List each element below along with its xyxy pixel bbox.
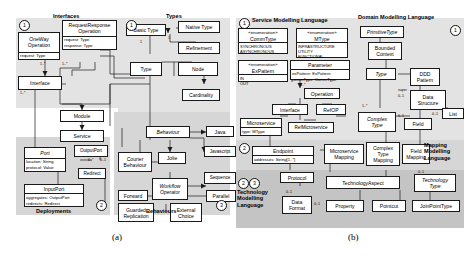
caption-domain-ml: Domain Modelling Language — [358, 14, 434, 20]
class-interface-b[interactable]: Interface — [272, 104, 308, 115]
class-attr-1: request: Type — [63, 36, 116, 43]
multiplicity: 1..* — [20, 91, 25, 95]
class-expattern-enum[interactable]: «enumeration» ExPattern IN OUT — [238, 60, 288, 82]
class-endpoint[interactable]: Endpoint addresses: String[1..*] — [252, 146, 314, 164]
class-name: Endpoint — [254, 148, 312, 154]
section-number-technology-ml-b: 3 — [249, 178, 260, 189]
class-name: Service — [62, 133, 102, 139]
caption-behaviours: Behaviours — [146, 208, 176, 214]
class-type-b[interactable]: Type — [366, 68, 396, 80]
class-parameter[interactable]: Parameter exPattern: ExPattern commType:… — [290, 60, 350, 80]
class-type-a[interactable]: Type — [130, 62, 162, 76]
class-attr-1: aggregates: OutputPort — [25, 193, 83, 200]
class-requestresponse-operation[interactable]: RequestResponse Operation request: Type … — [62, 20, 117, 50]
class-ddd-pattern[interactable]: DDD Pattern — [410, 68, 440, 86]
class-pointcut[interactable]: Pointcut — [372, 200, 406, 212]
class-java[interactable]: Java — [206, 126, 234, 137]
class-name: Redirect — [80, 171, 104, 176]
class-name: TechnologyAspect — [328, 180, 398, 186]
class-name: Port — [26, 150, 64, 156]
class-node[interactable]: Node — [178, 62, 218, 76]
class-service[interactable]: Service — [60, 130, 104, 142]
section-number-service-ml: 1 — [239, 18, 250, 29]
section-number-domain-ml: 1 — [450, 25, 461, 36]
multiplicity: 1..* — [362, 104, 367, 108]
class-list[interactable]: List — [442, 108, 464, 119]
class-jolie[interactable]: Jolie — [158, 152, 186, 164]
class-name: Java — [208, 129, 232, 135]
multiplicity: 0..1 — [418, 170, 424, 174]
class-bounded-context[interactable]: Bounded Context — [368, 42, 402, 60]
multiplicity: 1..* — [300, 83, 305, 87]
class-name: Protocol — [282, 175, 312, 181]
class-data-format[interactable]: Data Format — [282, 196, 312, 214]
class-behaviour[interactable]: Behaviour — [146, 126, 190, 138]
caption-deployments: Deployments — [36, 208, 71, 214]
stereotype-label: «enumeration» — [298, 30, 346, 35]
multiplicity: 1 — [168, 36, 170, 40]
class-workflow-operator[interactable]: Workflow Operator — [152, 178, 188, 200]
class-javascript[interactable]: Javascript — [204, 146, 236, 157]
section-number-technology-ml-a: 2 — [238, 178, 249, 189]
class-operation[interactable]: Operation — [304, 88, 340, 99]
class-microservice-mapping[interactable]: Microservice Mapping — [324, 144, 364, 164]
class-technology-type[interactable]: Technology Type — [414, 174, 456, 192]
class-name: Complex Type — [360, 116, 394, 128]
class-data-structure[interactable]: Data Structure — [410, 90, 446, 110]
class-redirect[interactable]: Redirect — [78, 168, 106, 179]
class-primitive-type[interactable]: PrimitiveType — [360, 26, 404, 38]
class-refop[interactable]: RefOP — [316, 104, 346, 115]
class-name: Type — [368, 71, 394, 77]
class-joinpointtype[interactable]: JoinPointType — [412, 200, 460, 212]
class-name: OutputPort — [76, 148, 106, 153]
multiplicity: 0..1 — [314, 202, 320, 206]
class-name: Type — [132, 66, 160, 72]
class-complex-type[interactable]: Complex Type — [358, 112, 396, 132]
class-attr: addresses: String[1..*] — [253, 155, 313, 162]
multiplicity: 1..* — [40, 62, 45, 66]
multiplicity: 1 — [140, 40, 142, 44]
class-name: RefMicroservice — [290, 125, 332, 130]
class-name: Operation — [306, 91, 338, 97]
class-technology-aspect[interactable]: TechnologyAspect — [326, 176, 400, 189]
class-name: OneWay Operation — [20, 36, 58, 48]
class-attr-1: exPattern: ExPattern — [291, 69, 349, 76]
class-mtype-enum[interactable]: «enumeration» MType INFRASTRUCTURE UTILI… — [296, 28, 348, 58]
class-forward[interactable]: Forward — [118, 190, 148, 201]
class-courier-behaviour[interactable]: Courier Behaviour — [118, 152, 152, 172]
class-field[interactable]: Field — [404, 118, 432, 130]
enum-values: IN OUT — [239, 74, 287, 86]
section-number-interfaces: 1 — [19, 20, 30, 31]
class-cardinality[interactable]: Cardinality — [182, 89, 220, 101]
class-name: Microservice — [242, 120, 280, 126]
class-oneway-operation[interactable]: OneWay Operation request: Type — [18, 32, 60, 60]
class-module[interactable]: Module — [60, 110, 104, 122]
class-protocol[interactable]: Protocol — [280, 172, 314, 183]
caption-mapping-ml: Mapping Modelling Language — [424, 142, 464, 161]
class-interface-a[interactable]: Interface — [18, 76, 62, 90]
class-microservice[interactable]: Microservice type: MType — [240, 118, 282, 136]
class-input-port[interactable]: InputPort aggregates: OutputPort redirec… — [24, 184, 84, 207]
class-refmicroservice[interactable]: RefMicroservice — [288, 122, 334, 133]
class-name: InputPort — [26, 186, 82, 192]
class-sequence[interactable]: Sequence — [204, 172, 236, 184]
class-name: Cardinality — [184, 92, 218, 98]
class-name: PrimitiveType — [362, 29, 402, 35]
class-output-port[interactable]: OutputPort — [74, 145, 108, 157]
class-complex-type-mapping[interactable]: Complex Type Mapping — [366, 142, 400, 166]
section-number-mapping-ml: 2 — [239, 143, 250, 154]
figure-label-a: (a) — [112, 232, 122, 242]
class-name: Data Format — [284, 199, 310, 211]
class-name: RequestResponse Operation — [64, 22, 115, 34]
class-commtype-enum[interactable]: «enumeration» CommType SYNCHRONOUS ASYNC… — [238, 28, 288, 54]
class-name: Sequence — [206, 175, 234, 180]
caption-types: Types — [166, 13, 182, 19]
multiplicity: 0..1 — [286, 190, 292, 194]
class-name: Courier Behaviour — [120, 156, 150, 168]
class-refinement[interactable]: Refinement — [178, 42, 220, 54]
class-property[interactable]: Property — [326, 200, 364, 212]
class-native-type[interactable]: Native Type — [178, 21, 220, 33]
section-number-deployments: 2 — [96, 200, 107, 211]
class-name: RefOP — [318, 107, 344, 113]
class-port[interactable]: Port location: String protocol: Value — [24, 147, 66, 172]
